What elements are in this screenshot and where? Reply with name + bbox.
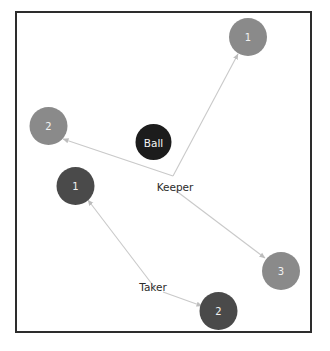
diagram-canvas: Ball 12312 KeeperTaker	[0, 0, 330, 351]
player-movement-diagram: Ball 12312 KeeperTaker	[0, 0, 330, 351]
player-circle-keeper-target-2[interactable]	[30, 107, 68, 145]
player-circle-keeper-target-3[interactable]	[262, 252, 300, 290]
player-circle-taker-target-1[interactable]	[57, 167, 95, 205]
ball-node[interactable]: Ball	[136, 124, 172, 160]
pitch-frame	[16, 12, 311, 332]
player-circle-taker-target-2[interactable]	[200, 292, 238, 330]
player-circle-keeper-target-1[interactable]	[229, 18, 267, 56]
ball-circle[interactable]	[136, 124, 172, 160]
